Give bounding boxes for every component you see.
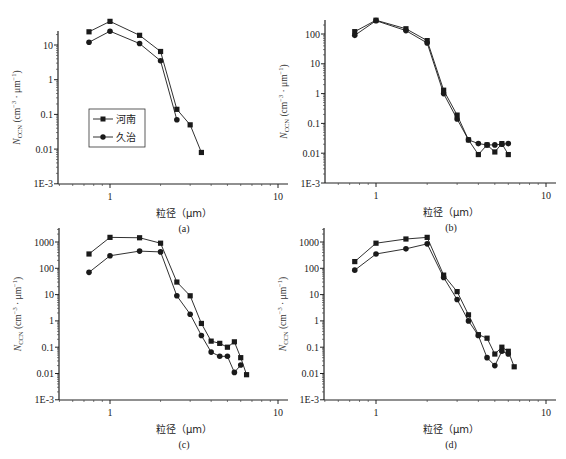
- circle-marker: [424, 241, 430, 247]
- y-tick-label: 100: [304, 263, 319, 274]
- circle-marker: [499, 141, 505, 147]
- square-marker: [476, 152, 481, 157]
- y-tick-label: 10: [310, 58, 320, 69]
- square-marker: [403, 236, 408, 241]
- x-axis-title: 粒径（μm）: [423, 423, 479, 435]
- y-axis-title: NCCN (cm−3 · μm−1): [11, 277, 24, 352]
- x-tick-label: 1: [374, 190, 379, 201]
- square-marker: [137, 33, 142, 38]
- circle-marker: [187, 311, 193, 317]
- square-marker: [492, 149, 497, 154]
- panel-a: 1E-30.010.1110110粒径（μm）(a)NCCN (cm−3 · μ…: [10, 19, 288, 235]
- y-tick-label: 100: [305, 29, 320, 40]
- circle-marker: [424, 40, 430, 46]
- circle-marker: [441, 91, 447, 97]
- circle-marker: [454, 297, 460, 303]
- x-axis-title: 粒径（μm）: [156, 423, 212, 435]
- x-tick-label: 1: [108, 191, 113, 202]
- circle-marker: [199, 333, 205, 339]
- circle-marker: [86, 39, 92, 45]
- circle-marker: [466, 137, 472, 143]
- square-marker: [199, 321, 204, 326]
- series-line-henan: [89, 237, 247, 374]
- y-tick-label: 0.01: [302, 368, 320, 379]
- y-tick-label: 1E-3: [300, 394, 319, 405]
- y-tick-label: 1E-3: [301, 178, 320, 189]
- y-axis-title: NCCN (cm−3 · μm−1): [10, 70, 23, 145]
- circle-marker: [217, 354, 223, 360]
- circle-marker: [505, 141, 511, 147]
- y-tick-label: 10: [44, 289, 54, 300]
- square-marker: [492, 351, 497, 356]
- y-tick-label: 1E-3: [34, 178, 53, 189]
- circle-marker: [484, 142, 490, 148]
- circle-marker: [466, 318, 472, 324]
- figure-canvas: 1E-30.010.1110110粒径（μm）(a)NCCN (cm−3 · μ…: [0, 0, 566, 459]
- y-tick-label: 0.01: [37, 368, 55, 379]
- y-tick-label: 1000: [299, 237, 319, 248]
- circle-marker: [352, 267, 358, 273]
- panel-label: (a): [178, 223, 189, 235]
- y-tick-label: 10: [309, 289, 319, 300]
- square-marker: [455, 289, 460, 294]
- x-axis-title: 粒径（μm）: [423, 206, 479, 218]
- series-line-henan: [355, 20, 509, 154]
- series-line-jiuzhi: [355, 21, 509, 145]
- y-tick-label: 1: [314, 315, 319, 326]
- panel-b: 1E-30.010.1110100110粒径（μm）(b)NCCN (cm−3 …: [277, 18, 556, 234]
- circle-marker: [137, 248, 143, 254]
- square-marker: [232, 339, 237, 344]
- circle-marker: [174, 293, 180, 299]
- y-tick-label: 100: [39, 263, 54, 274]
- legend: 河南久治: [89, 109, 145, 147]
- circle-marker: [403, 246, 409, 252]
- square-marker: [217, 341, 222, 346]
- y-tick-label: 1: [49, 315, 54, 326]
- square-marker: [188, 122, 193, 127]
- square-marker: [238, 355, 243, 360]
- circle-marker: [373, 251, 379, 257]
- square-marker: [244, 372, 249, 377]
- square-marker: [373, 241, 378, 246]
- circle-marker: [476, 333, 482, 339]
- square-marker: [484, 336, 489, 341]
- y-axis-title: NCCN (cm−3 · μm−1): [276, 277, 289, 352]
- square-marker: [188, 293, 193, 298]
- y-tick-label: 1: [315, 88, 320, 99]
- y-tick-label: 1: [48, 74, 53, 85]
- circle-marker: [403, 28, 409, 34]
- legend-circle-icon: [100, 134, 105, 139]
- square-marker: [209, 339, 214, 344]
- circle-marker: [158, 249, 164, 255]
- circle-marker: [499, 348, 505, 354]
- square-marker: [158, 49, 163, 54]
- square-marker: [107, 19, 112, 24]
- y-tick-label: 0.01: [303, 148, 321, 159]
- circle-marker: [238, 362, 244, 368]
- y-tick-label: 1000: [34, 237, 54, 248]
- square-marker: [174, 279, 179, 284]
- square-marker: [137, 235, 142, 240]
- circle-marker: [352, 33, 358, 39]
- circle-marker: [225, 354, 231, 360]
- y-tick-label: 1E-3: [35, 394, 54, 405]
- series-line-jiuzhi: [355, 244, 509, 366]
- circle-marker: [137, 41, 143, 47]
- series-line-jiuzhi: [89, 31, 177, 120]
- x-axis-title: 粒径（μm）: [156, 207, 212, 219]
- series-line-henan: [355, 237, 514, 366]
- x-tick-label: 10: [273, 191, 283, 202]
- y-tick-label: 0.1: [42, 342, 55, 353]
- square-marker: [86, 251, 91, 256]
- legend-label: 河南: [116, 113, 136, 125]
- x-tick-label: 10: [541, 407, 551, 418]
- square-marker: [107, 235, 112, 240]
- circle-marker: [232, 370, 238, 376]
- panel-c: 1E-30.010.11101001000110粒径（μm）(c)NCCN (c…: [11, 228, 288, 451]
- circle-marker: [107, 28, 113, 34]
- y-tick-label: 10: [43, 40, 53, 51]
- circle-marker: [492, 142, 498, 148]
- y-tick-label: 0.1: [308, 118, 321, 129]
- square-marker: [352, 259, 357, 264]
- square-marker: [199, 150, 204, 155]
